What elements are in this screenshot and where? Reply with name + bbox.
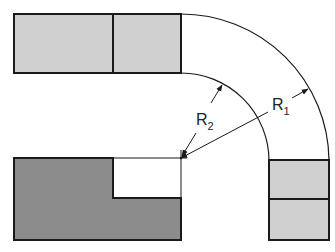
top-block [14,14,181,73]
r2-label: R2 [196,111,214,132]
r1-label: R1 [272,96,290,117]
outer-arc [181,14,329,160]
bend-radius-diagram: R1 R2 [0,0,335,252]
inner-arc [181,73,269,160]
r2-dimension: R2 [182,85,222,156]
bottom-left-block [14,150,187,240]
right-block [269,160,329,240]
